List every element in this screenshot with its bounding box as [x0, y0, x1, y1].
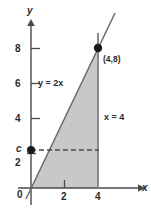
x-axis-label: x — [142, 183, 148, 193]
line-equation-label: y = 2x — [38, 79, 63, 88]
coordinate-plane-svg — [0, 0, 151, 213]
point-c-marker — [27, 146, 35, 154]
y-tick-label-c: c — [16, 144, 22, 154]
point-4-8-marker — [94, 44, 102, 52]
y-axis-ticks — [27, 49, 40, 154]
y-tick-label-2: 2 — [15, 158, 21, 168]
point-coordinates-label: (4,8) — [103, 55, 120, 64]
y-axis — [27, 19, 35, 205]
vertical-line-equation-label: x = 4 — [104, 113, 124, 122]
y-tick-label-8: 8 — [15, 44, 21, 54]
origin-label: 0 — [17, 190, 23, 200]
x-tick-label-4: 4 — [95, 192, 101, 202]
y-axis-label: y — [27, 6, 33, 16]
y-tick-label-6: 6 — [15, 79, 21, 89]
x-tick-label-2: 2 — [61, 192, 67, 202]
graph-figure: y x 8 6 4 c 2 0 2 4 y = 2x x = 4 (4,8) — [0, 0, 151, 213]
y-tick-label-4: 4 — [15, 114, 21, 124]
